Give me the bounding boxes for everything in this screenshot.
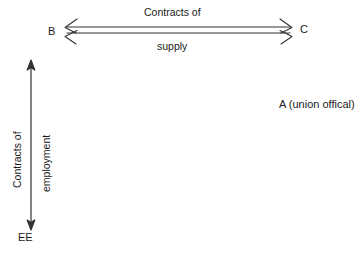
edge-label-supply: supply <box>157 41 187 52</box>
node-label-c: C <box>300 24 308 35</box>
edge-label-contracts-of: Contracts of <box>144 7 201 18</box>
diagram-canvas: B C EE A (union offical) Contracts of su… <box>0 0 357 256</box>
edge-label-employment: employment <box>41 135 52 192</box>
arrow-layer <box>0 0 357 256</box>
node-label-b: B <box>48 26 55 37</box>
node-label-a-union-official: A (union offical) <box>279 99 355 110</box>
node-label-ee: EE <box>18 232 33 243</box>
edge-label-contracts-of-vertical: Contracts of <box>12 131 23 188</box>
vertical-double-arrow <box>27 60 35 230</box>
